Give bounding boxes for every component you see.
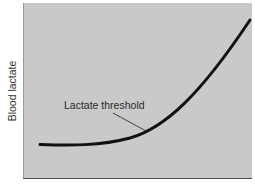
lactate-curve xyxy=(40,20,250,145)
lactate-chart: Blood lactate Lactate threshold xyxy=(0,0,255,191)
lactate-threshold-label: Lactate threshold xyxy=(64,99,145,111)
chart-curve-layer xyxy=(0,0,255,191)
y-axis-label-text: Blood lactate xyxy=(6,61,18,122)
threshold-leader-line xyxy=(113,113,146,131)
